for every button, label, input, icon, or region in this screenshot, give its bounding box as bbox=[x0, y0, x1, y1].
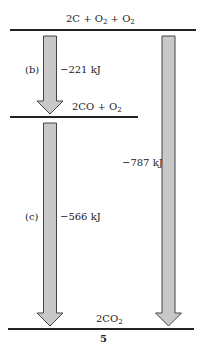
middle-label-part1: 2CO + O bbox=[72, 101, 117, 112]
bottom-label-sub1: 2 bbox=[118, 318, 122, 326]
middle-level-label: 2CO + O2 bbox=[72, 101, 122, 113]
top-label-sub2: 2 bbox=[130, 18, 134, 26]
arrow-c-icon bbox=[37, 123, 63, 326]
arrow-c-energy: −566 kJ bbox=[60, 211, 101, 223]
top-level-label: 2C + O2 + O2 bbox=[66, 13, 135, 25]
arrow-b-energy: −221 kJ bbox=[60, 64, 101, 76]
top-label-part1: 2C + O bbox=[66, 13, 103, 24]
arrow-total-energy: −787 kJ bbox=[122, 157, 163, 169]
arrow-c-tag: (c) bbox=[25, 211, 38, 223]
arrow-total-icon bbox=[156, 36, 182, 326]
top-label-part2: + O bbox=[107, 13, 130, 24]
arrows-layer bbox=[0, 0, 201, 353]
middle-label-sub1: 2 bbox=[117, 106, 121, 114]
arrow-b-tag: (b) bbox=[25, 64, 39, 76]
bottom-level-label: 2CO2 bbox=[96, 313, 123, 325]
figure-number: 5 bbox=[100, 333, 107, 345]
bottom-label-part1: 2CO bbox=[96, 313, 118, 324]
